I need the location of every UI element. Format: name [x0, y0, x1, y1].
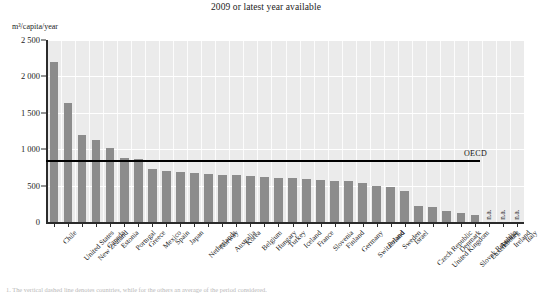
x-tick-mark [349, 223, 350, 227]
bar [302, 179, 311, 222]
bar [218, 175, 227, 222]
vertical-gridline [482, 40, 483, 222]
vertical-gridline [286, 40, 287, 222]
bar [442, 211, 451, 222]
bar [92, 140, 101, 222]
vertical-gridline [370, 40, 371, 222]
bar [260, 177, 269, 222]
na-marker: n.a. [513, 204, 520, 222]
vertical-gridline [257, 40, 258, 222]
vertical-gridline [328, 40, 329, 222]
na-marker: n.a. [499, 204, 506, 222]
vertical-gridline [440, 40, 441, 222]
bar [358, 183, 367, 222]
x-tick-mark [405, 223, 406, 227]
x-tick-mark [250, 223, 251, 227]
oecd-average-label: OECD [464, 149, 487, 158]
x-tick-mark [517, 223, 518, 227]
y-tick-label: 2 000 [2, 71, 40, 81]
vertical-gridline [243, 40, 244, 222]
x-tick-mark [321, 223, 322, 227]
y-tick-label: 500 [2, 181, 40, 191]
bar [471, 215, 480, 222]
x-tick-mark [475, 223, 476, 227]
x-tick-mark [110, 223, 111, 227]
x-tick-mark [54, 223, 55, 227]
y-tick-mark [41, 40, 46, 41]
x-tick-mark [82, 223, 83, 227]
vertical-gridline [75, 40, 76, 222]
y-tick-mark [41, 149, 46, 150]
vertical-gridline [342, 40, 343, 222]
x-tick-mark [377, 223, 378, 227]
category-label-japan: Japan [188, 229, 205, 246]
bar [134, 159, 143, 222]
vertical-gridline [215, 40, 216, 222]
vertical-gridline [229, 40, 230, 222]
y-axis-unit-label: m³/capita/year [12, 22, 58, 31]
bar [232, 175, 241, 222]
x-tick-mark [307, 223, 308, 227]
bar [316, 180, 325, 222]
vertical-gridline [300, 40, 301, 222]
vertical-gridline [356, 40, 357, 222]
y-tick-mark [41, 112, 46, 113]
bar [344, 181, 353, 222]
bar [162, 171, 171, 222]
x-tick-mark [335, 223, 336, 227]
x-tick-mark [461, 223, 462, 227]
bar [330, 181, 339, 222]
vertical-gridline [412, 40, 413, 222]
na-marker: n.a. [485, 204, 492, 222]
vertical-gridline [117, 40, 118, 222]
y-tick-label: 1 000 [2, 144, 40, 154]
vertical-gridline [426, 40, 427, 222]
vertical-gridline [510, 40, 511, 222]
y-tick-label: 0 [2, 217, 40, 227]
bar [414, 206, 423, 222]
x-tick-mark [236, 223, 237, 227]
x-tick-mark [96, 223, 97, 227]
oecd-average-line [46, 160, 480, 162]
vertical-gridline [398, 40, 399, 222]
x-tick-mark [503, 223, 504, 227]
bar [106, 148, 115, 222]
vertical-gridline [103, 40, 104, 222]
bar [50, 62, 59, 222]
x-tick-mark [124, 223, 125, 227]
y-axis-line [46, 40, 48, 223]
vertical-gridline [468, 40, 469, 222]
x-tick-mark [391, 223, 392, 227]
bar [204, 174, 213, 222]
vertical-gridline [159, 40, 160, 222]
vertical-gridline [145, 40, 146, 222]
vertical-gridline [131, 40, 132, 222]
x-tick-mark [447, 223, 448, 227]
x-tick-mark [208, 223, 209, 227]
vertical-gridline [496, 40, 497, 222]
bar [176, 172, 185, 222]
vertical-gridline [454, 40, 455, 222]
bar [386, 187, 395, 222]
vertical-gridline [201, 40, 202, 222]
category-label-chile: Chile [62, 229, 78, 245]
bar [428, 207, 437, 222]
x-tick-mark [293, 223, 294, 227]
x-tick-mark [152, 223, 153, 227]
bar [288, 178, 297, 222]
vertical-gridline [187, 40, 188, 222]
x-tick-mark [419, 223, 420, 227]
vertical-gridline [61, 40, 62, 222]
bar [246, 176, 255, 222]
x-tick-mark [489, 223, 490, 227]
plot-inner: n.a.n.a.n.a. [47, 40, 524, 222]
bar [457, 213, 466, 222]
vertical-gridline [89, 40, 90, 222]
x-axis-line [46, 222, 524, 224]
vertical-gridline [384, 40, 385, 222]
bar [78, 135, 87, 222]
y-tick-label: 1 500 [2, 108, 40, 118]
bar [190, 173, 199, 223]
bar [372, 186, 381, 222]
